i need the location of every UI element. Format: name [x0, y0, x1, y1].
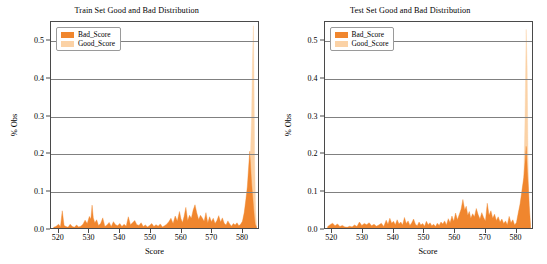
- x-tick-label: 540: [387, 233, 399, 242]
- x-tick-mark: [242, 229, 243, 233]
- x-tick-label: 520: [325, 233, 337, 242]
- chart-title-test: Test Set Good and Bad Distribution: [274, 6, 547, 15]
- x-tick-mark: [211, 229, 212, 233]
- y-tick-label: 0.1: [34, 187, 44, 196]
- y-axis-label-train: % Obs: [10, 114, 19, 137]
- plot-area-train: [50, 21, 259, 229]
- gridline: [51, 79, 258, 80]
- x-tick-label: 540: [113, 233, 125, 242]
- x-tick-label: 550: [417, 233, 429, 242]
- y-tick-label: 0.4: [34, 73, 44, 82]
- y-tick-mark: [46, 191, 50, 192]
- legend-label-good-score: Good_Score: [78, 39, 115, 48]
- x-tick-mark: [485, 229, 486, 233]
- x-tick-label: 550: [144, 233, 156, 242]
- y-tick-label: 0.5: [308, 35, 318, 44]
- x-tick-mark: [454, 229, 455, 233]
- gridline: [51, 117, 258, 118]
- legend-swatch-bad-score: [335, 32, 348, 38]
- gridline: [51, 192, 258, 193]
- x-axis-label-test: Score: [324, 247, 533, 256]
- y-tick-mark: [320, 153, 324, 154]
- x-tick-mark: [362, 229, 363, 233]
- series-svg-train: [51, 22, 258, 228]
- legend-train: Bad_Score Good_Score: [56, 27, 121, 51]
- x-tick-mark: [58, 229, 59, 233]
- legend-label-bad-score: Bad_Score: [78, 30, 110, 39]
- chart-title-train: Train Set Good and Bad Distribution: [0, 6, 274, 15]
- x-tick-mark: [150, 229, 151, 233]
- y-tick-label: 0.0: [308, 225, 318, 234]
- x-tick-label: 520: [52, 233, 64, 242]
- series-bad-score-test: [327, 146, 530, 228]
- x-tick-label: 570: [479, 233, 491, 242]
- y-tick-label: 0.4: [308, 73, 318, 82]
- x-tick-label: 580: [510, 233, 522, 242]
- x-tick-label: 560: [448, 233, 460, 242]
- series-layer-train: [51, 22, 258, 228]
- y-tick-mark: [46, 77, 50, 78]
- legend-label-bad-score: Bad_Score: [352, 30, 384, 39]
- y-tick-mark: [46, 229, 50, 230]
- plot-area-test: [324, 21, 533, 229]
- gridline: [325, 154, 532, 155]
- x-tick-label: 530: [356, 233, 368, 242]
- y-tick-mark: [46, 39, 50, 40]
- x-tick-mark: [119, 229, 120, 233]
- x-tick-label: 570: [205, 233, 217, 242]
- y-tick-mark: [320, 77, 324, 78]
- legend-swatch-bad-score: [61, 32, 74, 38]
- y-tick-label: 0.0: [34, 225, 44, 234]
- legend-swatch-good-score: [335, 41, 348, 47]
- x-tick-mark: [423, 229, 424, 233]
- legend-item-good-score-train: Good_Score: [61, 39, 115, 48]
- x-tick-mark: [331, 229, 332, 233]
- series-good-score-train: [54, 26, 257, 228]
- y-tick-mark: [320, 115, 324, 116]
- gridline: [325, 79, 532, 80]
- x-tick-label: 580: [236, 233, 248, 242]
- series-good-score-test: [327, 29, 530, 228]
- x-tick-mark: [88, 229, 89, 233]
- panel-test: Test Set Good and Bad Distribution % Obs…: [274, 0, 547, 264]
- gridline: [325, 192, 532, 193]
- y-tick-mark: [320, 191, 324, 192]
- legend-item-bad-score-test: Bad_Score: [335, 30, 389, 39]
- legend-item-bad-score-train: Bad_Score: [61, 30, 115, 39]
- y-tick-label: 0.2: [308, 149, 318, 158]
- figure-two-panel-distributions: Train Set Good and Bad Distribution % Ob…: [0, 0, 547, 264]
- y-tick-mark: [46, 115, 50, 116]
- gridline: [51, 154, 258, 155]
- y-tick-mark: [320, 229, 324, 230]
- x-tick-mark: [393, 229, 394, 233]
- x-tick-label: 560: [175, 233, 187, 242]
- series-bad-score-train: [54, 151, 257, 228]
- y-tick-mark: [320, 39, 324, 40]
- y-tick-mark: [46, 153, 50, 154]
- series-layer-test: [325, 22, 532, 228]
- x-axis-label-train: Score: [50, 247, 259, 256]
- legend-test: Bad_Score Good_Score: [330, 27, 395, 51]
- legend-item-good-score-test: Good_Score: [335, 39, 389, 48]
- series-svg-test: [325, 22, 532, 228]
- legend-swatch-good-score: [61, 41, 74, 47]
- gridline: [325, 117, 532, 118]
- x-tick-mark: [516, 229, 517, 233]
- legend-label-good-score: Good_Score: [352, 39, 389, 48]
- x-tick-label: 530: [82, 233, 94, 242]
- panel-train: Train Set Good and Bad Distribution % Ob…: [0, 0, 274, 264]
- y-axis-label-test: % Obs: [283, 114, 292, 137]
- y-tick-label: 0.3: [308, 111, 318, 120]
- y-tick-label: 0.2: [34, 149, 44, 158]
- x-tick-mark: [181, 229, 182, 233]
- y-tick-label: 0.1: [308, 187, 318, 196]
- y-tick-label: 0.3: [34, 111, 44, 120]
- y-tick-label: 0.5: [34, 35, 44, 44]
